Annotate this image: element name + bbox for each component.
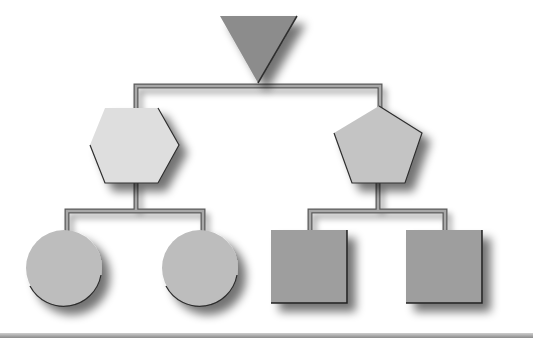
node-square-1 bbox=[271, 230, 347, 303]
node-root-triangle bbox=[220, 16, 297, 83]
connector-right bbox=[310, 182, 445, 232]
node-pentagon bbox=[334, 106, 422, 183]
connector-left bbox=[67, 182, 203, 232]
node-circle-2 bbox=[162, 230, 238, 306]
node-square-2 bbox=[406, 230, 482, 303]
bottom-divider bbox=[0, 333, 533, 338]
hierarchy-diagram: Inverted triangle (root) Hexagon Pentago… bbox=[0, 0, 533, 338]
node-hexagon bbox=[90, 108, 179, 183]
node-circle-1 bbox=[26, 230, 102, 306]
connector-root bbox=[136, 86, 380, 112]
